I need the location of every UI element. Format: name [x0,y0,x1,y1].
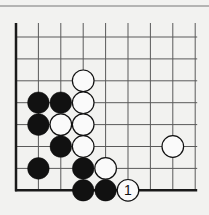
black-stone [72,180,94,202]
white-stone [72,92,94,114]
white-stone [95,158,117,180]
white-stone [72,70,94,92]
black-stone [95,180,117,202]
white-stone [72,114,94,136]
black-stone [50,92,72,114]
white-stone [162,136,184,158]
black-stone [28,92,50,114]
white-stone [72,136,94,158]
black-stone [28,114,50,136]
white-stone [50,114,72,136]
black-stone [28,158,50,180]
black-stone [72,158,94,180]
go-board: 1 [0,0,209,215]
black-stone [50,136,72,158]
move-number-label: 1 [124,182,132,198]
